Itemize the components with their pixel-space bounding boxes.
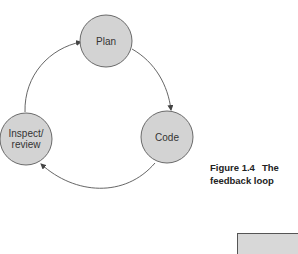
node-code: Code [141,111,193,163]
node-inspect-label-line1: Inspect/ [8,128,43,139]
edge-code-to-inspect [41,163,155,188]
caption-title-line1: The [262,162,279,173]
node-inspect-review: Inspect/ review [0,113,52,165]
node-plan-label: Plan [96,36,116,47]
node-code-label: Code [155,132,179,143]
caption-title-line2: feedback loop [210,174,284,187]
cropped-body-text [2,236,112,240]
edge-inspect-to-plan [25,42,81,112]
figure-number: Figure 1.4 [210,162,255,173]
node-plan: Plan [80,15,132,67]
node-inspect-label-line2: review [12,139,42,150]
edge-plan-to-code [132,49,171,110]
figure-caption: Figure 1.4The feedback loop [210,161,284,187]
sidebar-box-partial [237,233,298,254]
caption-line-1: Figure 1.4The [210,161,284,174]
